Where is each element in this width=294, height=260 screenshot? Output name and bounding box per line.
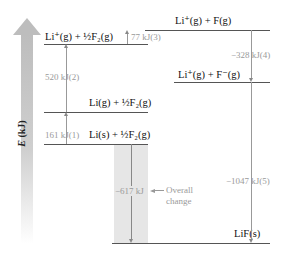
overall-caption-line2: change	[166, 196, 191, 206]
step3-arrowhead	[125, 30, 129, 34]
level-line-li-solid-half-f2	[44, 144, 148, 145]
level-label-li-plus-f: Li⁺(g) + F(g)	[175, 14, 231, 26]
level-label-li-plus-f-minus: Li⁺(g) + F⁻(g)	[178, 68, 240, 80]
step2-arrowhead	[64, 44, 68, 48]
level-line-li-gas-half-f2	[44, 112, 148, 113]
level-label-li-gas-half-f2: Li(g) + ½F₂(g)	[89, 97, 151, 108]
level-label-lif-solid: LiF(s)	[234, 228, 260, 239]
energy-axis-label: E (kJ)	[16, 120, 27, 146]
level-label-li-plus-half-f2: Li⁺(g) + ½F₂(g)	[45, 30, 113, 42]
overall-pointer-line	[155, 190, 164, 191]
step3-arrow-line	[127, 33, 128, 44]
step5-arrowhead	[249, 239, 253, 243]
level-line-li-plus-half-f2	[44, 44, 148, 45]
step1-arrowhead	[64, 112, 68, 116]
step5-label: −1047 kJ(5)	[226, 176, 270, 186]
overall-caption-line1: Overall	[166, 185, 193, 195]
level-line-lif-solid	[112, 243, 270, 244]
step3-label: 77 kJ(3)	[131, 32, 161, 42]
level-label-li-solid-half-f2: Li(s) + ½F₂(g)	[89, 129, 150, 140]
step5-arrow-line	[251, 82, 252, 240]
level-line-li-plus-f-minus	[174, 82, 270, 83]
step1-label: 161 kJ(1)	[45, 130, 79, 140]
step2-label: 520 kJ(2)	[45, 72, 79, 82]
step4-label: −328 kJ(4)	[231, 50, 270, 60]
overall-value: −617 kJ	[115, 186, 144, 196]
overall-arrowhead	[129, 239, 133, 243]
energy-axis-arrowhead	[13, 18, 41, 35]
